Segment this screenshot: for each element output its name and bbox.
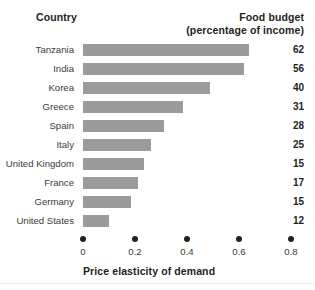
chart-row: India56 (0, 61, 315, 80)
x-axis-title: Price elasticity of demand (83, 265, 215, 277)
chart-row: France17 (0, 175, 315, 194)
food-budget-elasticity-chart: Country Food budget (percentage of incom… (0, 0, 315, 290)
chart-row: Tanzania62 (0, 42, 315, 61)
x-axis-tick-dot (288, 236, 294, 242)
row-value-food-budget: 25 (278, 139, 304, 150)
row-bar-track (83, 63, 308, 75)
column-header-food-budget-line1: Food budget (186, 11, 304, 24)
row-value-food-budget: 17 (278, 177, 304, 188)
bottom-divider (0, 283, 315, 284)
row-bar (83, 139, 151, 151)
x-axis-tick-label: 0 (80, 246, 85, 257)
row-label-country: United Kingdom (0, 158, 74, 169)
x-axis-tick-label: 0.6 (232, 246, 245, 257)
row-bar-track (83, 139, 308, 151)
row-label-country: France (0, 177, 74, 188)
row-bar (83, 196, 131, 208)
x-axis-tick-label: 0.4 (180, 246, 193, 257)
x-axis-tick-dot (132, 236, 138, 242)
chart-row: Italy25 (0, 137, 315, 156)
row-bar (83, 101, 183, 113)
row-bar-track (83, 82, 308, 94)
row-value-food-budget: 62 (278, 44, 304, 55)
row-bar (83, 158, 144, 170)
row-bar (83, 120, 164, 132)
column-header-food-budget-line2: (percentage of income) (186, 24, 304, 37)
chart-row: United Kingdom15 (0, 156, 315, 175)
row-bar-track (83, 158, 308, 170)
row-value-food-budget: 28 (278, 120, 304, 131)
row-bar (83, 63, 244, 75)
row-label-country: United States (0, 215, 74, 226)
row-bar-track (83, 177, 308, 189)
row-bar (83, 215, 109, 227)
row-label-country: Spain (0, 120, 74, 131)
row-value-food-budget: 56 (278, 63, 304, 74)
chart-row: Korea40 (0, 80, 315, 99)
row-label-country: Korea (0, 82, 74, 93)
row-label-country: Greece (0, 101, 74, 112)
row-label-country: India (0, 63, 74, 74)
row-value-food-budget: 40 (278, 82, 304, 93)
row-value-food-budget: 15 (278, 196, 304, 207)
row-value-food-budget: 15 (278, 158, 304, 169)
row-bar (83, 44, 249, 56)
row-label-country: Italy (0, 139, 74, 150)
row-bar-track (83, 44, 308, 56)
x-axis-tick-label: 0.8 (284, 246, 297, 257)
x-axis-tick-dot (236, 236, 242, 242)
row-bar-track (83, 101, 308, 113)
chart-row: Greece31 (0, 99, 315, 118)
x-axis-tick-dot (184, 236, 190, 242)
chart-row: Spain28 (0, 118, 315, 137)
column-header-country: Country (36, 11, 77, 23)
row-bar-track (83, 196, 308, 208)
column-header-food-budget: Food budget (percentage of income) (186, 11, 304, 37)
row-bar (83, 177, 138, 189)
x-axis-tick-dot (80, 236, 86, 242)
chart-rows: Tanzania62India56Korea40Greece31Spain28I… (0, 42, 315, 232)
row-bar (83, 82, 210, 94)
x-axis-tick-label: 0.2 (128, 246, 141, 257)
row-bar-track (83, 120, 308, 132)
row-label-country: Tanzania (0, 44, 74, 55)
row-value-food-budget: 31 (278, 101, 304, 112)
chart-row: Germany15 (0, 194, 315, 213)
row-bar-track (83, 215, 308, 227)
row-label-country: Germany (0, 196, 74, 207)
chart-row: United States12 (0, 213, 315, 232)
row-value-food-budget: 12 (278, 215, 304, 226)
